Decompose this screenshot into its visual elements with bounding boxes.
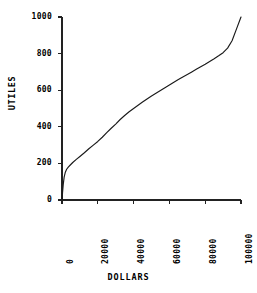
x-axis-title: DOLLARS — [0, 272, 257, 282]
axis-spines — [62, 17, 241, 200]
plot-area — [0, 0, 257, 293]
utility-curve — [62, 17, 241, 200]
y-axis-tick-marks — [58, 17, 62, 200]
utility-function-chart: UTILES 02004006008001000 020000400006000… — [0, 0, 257, 293]
x-axis-tick-marks — [62, 200, 241, 204]
